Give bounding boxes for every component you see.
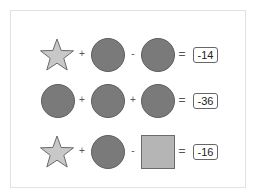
circle-icon	[141, 84, 175, 118]
star-icon	[39, 134, 75, 170]
square-icon	[141, 135, 175, 169]
equals-sign: =	[177, 93, 187, 107]
result-box: -16	[193, 144, 218, 160]
circle-icon	[91, 84, 125, 118]
operator-plus: +	[77, 48, 87, 59]
star-icon	[39, 37, 75, 73]
operator-plus: +	[128, 94, 138, 105]
circle-icon	[91, 135, 125, 169]
result-box: -14	[193, 47, 218, 63]
equation-row-3: + - = -16	[0, 135, 254, 171]
equation-row-1: + - = -14	[0, 38, 254, 74]
circle-icon	[41, 84, 75, 118]
operator-plus: +	[77, 145, 87, 156]
result-box: -36	[193, 93, 218, 109]
equals-sign: =	[177, 47, 187, 61]
circle-icon	[91, 38, 125, 72]
circle-icon	[141, 38, 175, 72]
equals-sign: =	[177, 144, 187, 158]
operator-minus: -	[128, 48, 138, 59]
equation-row-2: + + = -36	[0, 84, 254, 120]
operator-minus: -	[128, 145, 138, 156]
operator-plus: +	[77, 94, 87, 105]
